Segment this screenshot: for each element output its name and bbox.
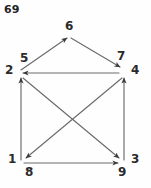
diagram-page: 69 1 2 3 4 6 5 7 8 9 xyxy=(0,0,151,188)
edge-6-to-7 xyxy=(71,38,120,67)
vertex-label-1: 1 xyxy=(8,153,16,165)
edge-label-8: 8 xyxy=(25,166,33,178)
edge-label-5: 5 xyxy=(20,52,28,64)
edge-2-to-3 xyxy=(23,78,119,158)
edge-4-to-1 xyxy=(26,78,122,158)
vertex-label-3: 3 xyxy=(131,153,139,165)
edge-label-7: 7 xyxy=(117,50,125,62)
vertex-label-2: 2 xyxy=(5,64,13,76)
vertex-label-6: 6 xyxy=(65,20,73,32)
directed-graph-drawing xyxy=(0,0,151,188)
edge-label-9: 9 xyxy=(118,166,126,178)
vertex-label-4: 4 xyxy=(131,64,139,76)
